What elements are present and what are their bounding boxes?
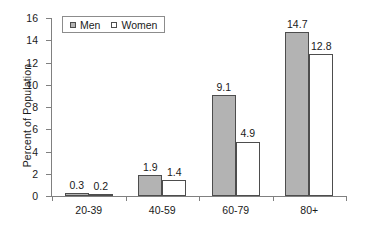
legend-item-women: Women xyxy=(111,19,157,31)
y-tick-label-12: 12 xyxy=(26,57,38,69)
y-tick-label-0: 0 xyxy=(32,190,38,202)
y-tick-6: 6 xyxy=(46,129,51,130)
bar-value-label-women-20-39: 0.2 xyxy=(93,180,108,192)
x-tick-label-20-39: 20-39 xyxy=(75,204,102,216)
x-axis-separator xyxy=(273,196,274,201)
bar-men-80+ xyxy=(285,32,309,196)
y-tick-label-4: 4 xyxy=(32,146,38,158)
legend-label-men: Men xyxy=(80,19,100,31)
legend-swatch-men-icon xyxy=(70,22,76,28)
y-tick-16: 16 xyxy=(46,18,51,19)
y-tick-4: 4 xyxy=(46,152,51,153)
x-axis-separator xyxy=(346,196,347,201)
y-tick-label-2: 2 xyxy=(32,168,38,180)
legend-label-women: Women xyxy=(121,19,157,31)
bar-men-40-59 xyxy=(138,175,162,196)
bar-value-label-men-80+: 14.7 xyxy=(287,18,307,30)
x-tick-label-80+: 80+ xyxy=(300,204,318,216)
y-tick-0: 0 xyxy=(46,196,51,197)
legend-item-men: Men xyxy=(70,19,100,31)
bar-chart: Percent of Population 0246810121416 20-3… xyxy=(0,0,369,231)
bar-value-label-women-40-59: 1.4 xyxy=(167,166,182,178)
plot-area: 0246810121416 20-3940-5960-7980+ 0.30.21… xyxy=(52,18,346,196)
bar-women-20-39 xyxy=(89,194,113,196)
bar-women-40-59 xyxy=(162,180,186,196)
y-tick-label-10: 10 xyxy=(26,79,38,91)
bar-women-80+ xyxy=(309,54,333,196)
y-axis-line xyxy=(51,18,52,196)
bar-men-20-39 xyxy=(65,193,89,196)
y-tick-8: 8 xyxy=(46,107,51,108)
bar-value-label-women-80+: 12.8 xyxy=(311,40,331,52)
y-tick-2: 2 xyxy=(46,174,51,175)
x-axis-separator xyxy=(52,196,53,201)
chart-legend: Men Women xyxy=(62,16,165,33)
y-tick-label-8: 8 xyxy=(32,101,38,113)
legend-swatch-women-icon xyxy=(111,22,117,28)
bar-women-60-79 xyxy=(236,142,260,197)
x-tick-label-40-59: 40-59 xyxy=(149,204,176,216)
y-tick-label-6: 6 xyxy=(32,123,38,135)
bar-value-label-men-40-59: 1.9 xyxy=(143,161,158,173)
bar-men-60-79 xyxy=(212,95,236,196)
bar-value-label-men-20-39: 0.3 xyxy=(69,179,84,191)
y-tick-label-14: 14 xyxy=(26,34,38,46)
x-axis-separator xyxy=(126,196,127,201)
y-tick-12: 12 xyxy=(46,63,51,64)
x-tick-label-60-79: 60-79 xyxy=(222,204,249,216)
bar-value-label-men-60-79: 9.1 xyxy=(216,81,231,93)
bar-value-label-women-60-79: 4.9 xyxy=(240,127,255,139)
y-tick-14: 14 xyxy=(46,40,51,41)
y-tick-label-16: 16 xyxy=(26,12,38,24)
y-tick-10: 10 xyxy=(46,85,51,86)
x-axis-separator xyxy=(199,196,200,201)
